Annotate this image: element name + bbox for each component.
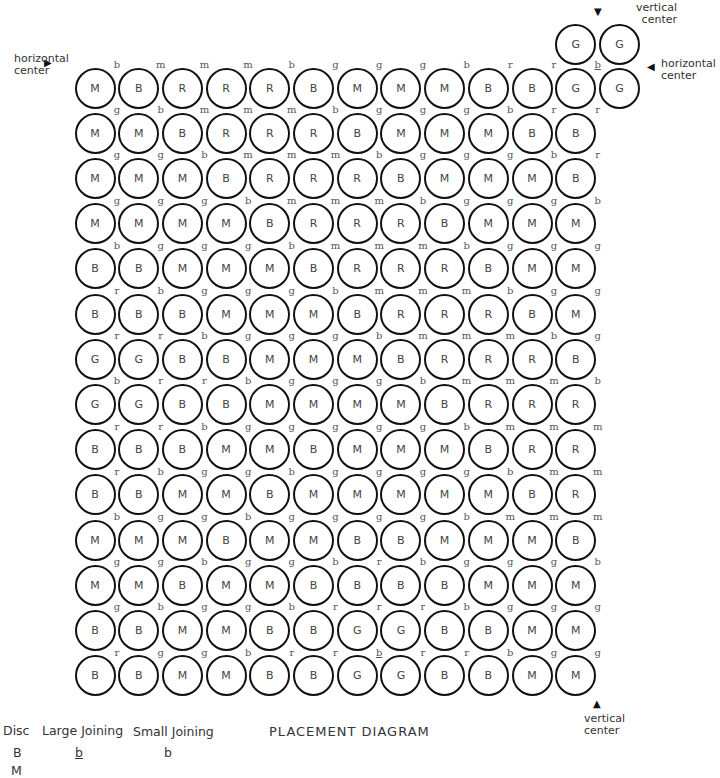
small-joining-label: m [418, 286, 427, 296]
disc: R [555, 474, 596, 515]
small-joining-label: m [506, 331, 515, 341]
disc: G [75, 339, 116, 380]
disc: R [512, 384, 553, 425]
small-joining-label: m [331, 150, 340, 160]
disc: M [468, 113, 509, 154]
small-joining-label: g [157, 557, 163, 567]
small-joining-label: g [289, 331, 295, 341]
small-joining-label: g [463, 467, 469, 477]
right-center-arrow-icon: ◀ [647, 62, 655, 72]
small-joining-label: m [418, 241, 427, 251]
small-joining-label: g [157, 150, 163, 160]
disc: M [293, 294, 334, 335]
disc: R [206, 113, 247, 154]
small-joining-label: b [201, 150, 207, 160]
small-joining-label: b [463, 241, 469, 251]
small-joining-label: g [507, 196, 513, 206]
disc: R [206, 68, 247, 109]
disc: B [380, 565, 421, 606]
disc: M [206, 655, 247, 696]
disc: B [206, 339, 247, 380]
disc: M [118, 565, 159, 606]
small-joining-label: g [289, 286, 295, 296]
disc: M [162, 520, 203, 561]
top-vertical-center-arrow-icon: ▼ [594, 7, 602, 17]
disc: M [162, 158, 203, 199]
small-joining-label: g [289, 512, 295, 522]
small-joining-label: g [289, 422, 295, 432]
disc: B [337, 113, 378, 154]
small-joining-label: g [245, 422, 251, 432]
small-joining-label: r [158, 422, 163, 432]
disc: B [555, 339, 596, 380]
disc: M [512, 655, 553, 696]
small-joining-label: m [462, 331, 471, 341]
small-joining-label: r [202, 376, 207, 386]
small-joining-label: b [420, 196, 426, 206]
legend-disc-b: B [13, 745, 22, 760]
disc: M [118, 520, 159, 561]
disc: R [249, 113, 290, 154]
disc: M [249, 339, 290, 380]
disc: M [555, 655, 596, 696]
disc: G [118, 384, 159, 425]
disc: B [75, 655, 116, 696]
small-joining-label: g [594, 331, 600, 341]
small-joining-label: m [374, 241, 383, 251]
disc: B [293, 248, 334, 289]
small-joining-label: g [245, 602, 251, 612]
disc-extra-top: G [555, 24, 596, 65]
small-joining-label: g [507, 557, 513, 567]
disc: R [424, 294, 465, 335]
disc: M [293, 520, 334, 561]
small-joining-label: r [595, 150, 600, 160]
disc: B [118, 294, 159, 335]
disc: G [337, 610, 378, 651]
disc: R [555, 384, 596, 425]
disc: B [293, 610, 334, 651]
small-joining-label: g [245, 331, 251, 341]
small-joining-label: b [376, 331, 382, 341]
disc: B [468, 655, 509, 696]
small-joining-label: g [332, 512, 338, 522]
disc: G [380, 655, 421, 696]
small-joining-label: b [551, 331, 557, 341]
disc: B [249, 610, 290, 651]
disc: M [206, 248, 247, 289]
disc: B [424, 610, 465, 651]
small-joining-label: r [115, 286, 120, 296]
disc: R [380, 294, 421, 335]
small-joining-label: g [420, 422, 426, 432]
disc: M [118, 113, 159, 154]
disc: M [555, 203, 596, 244]
disc: B [118, 655, 159, 696]
small-joining-label: m [506, 376, 515, 386]
small-joining-label: b [420, 376, 426, 386]
disc: M [162, 248, 203, 289]
small-joining-label: b [463, 602, 469, 612]
small-joining-label: g [157, 196, 163, 206]
disc: M [468, 474, 509, 515]
small-joining-label: m [374, 196, 383, 206]
small-joining-label: r [115, 648, 120, 658]
small-joining-label: g [114, 150, 120, 160]
small-joining-label: m [287, 196, 296, 206]
disc: M [75, 520, 116, 561]
disc: M [468, 203, 509, 244]
disc: R [249, 158, 290, 199]
small-joining-label: g [114, 602, 120, 612]
disc: B [555, 520, 596, 561]
small-joining-label: r [377, 557, 382, 567]
disc: M [512, 248, 553, 289]
disc: G [75, 384, 116, 425]
small-joining-label: g [289, 376, 295, 386]
disc: R [468, 384, 509, 425]
disc: B [249, 655, 290, 696]
small-joining-label: g [551, 286, 557, 296]
disc: M [293, 384, 334, 425]
small-joining-label: g [551, 557, 557, 567]
small-joining-label: g [463, 150, 469, 160]
small-joining-label: b [245, 512, 251, 522]
disc: M [512, 158, 553, 199]
disc: B [293, 655, 334, 696]
